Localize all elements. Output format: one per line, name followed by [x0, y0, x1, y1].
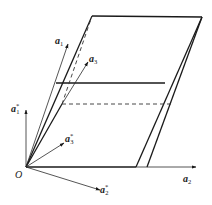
label-a3: a3	[89, 53, 97, 65]
unit-cell-diagram: a1 a3 a2 a*1 a*3 a*2 O	[0, 0, 212, 205]
label-origin: O	[15, 169, 22, 180]
cell-edges	[26, 16, 202, 167]
right-edge	[136, 17, 202, 167]
label-a1-star: a*1	[11, 102, 20, 115]
vector-a2-star	[26, 167, 100, 190]
label-a2-star: a*2	[100, 183, 109, 196]
inner-right-edge	[147, 17, 202, 167]
label-a1: a1	[55, 35, 63, 47]
top-edge	[92, 16, 202, 17]
label-a3-star: a*3	[65, 132, 74, 145]
hidden-edge-diagonal	[62, 16, 92, 104]
label-a2: a2	[183, 173, 191, 185]
